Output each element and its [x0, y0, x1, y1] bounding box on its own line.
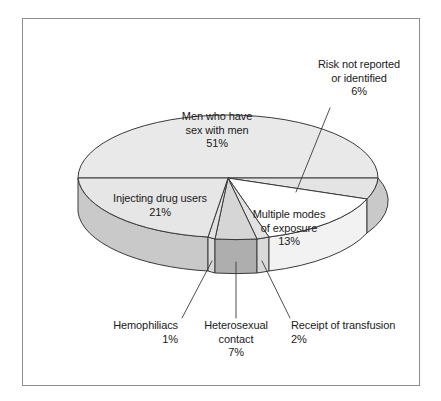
label-receipt-of-transfusion: Receipt of transfusion 2%: [291, 319, 421, 346]
label-heterosexual-contact: Heterosexual contact 7%: [189, 319, 283, 360]
label-msm-line1: Men who have: [150, 110, 284, 124]
label-transfusion-line1: Receipt of transfusion: [291, 319, 421, 333]
label-msm-line2: sex with men: [150, 124, 284, 138]
label-multiple-modes-line1: Multiple modes: [228, 208, 350, 222]
label-heterosexual-line2: contact: [189, 333, 283, 347]
label-heterosexual-line1: Heterosexual: [189, 319, 283, 333]
label-risk-not-reported-line2: or identified: [296, 72, 422, 86]
label-hemophiliacs-line1: Hemophiliacs: [68, 319, 178, 333]
label-hemophiliacs-value: 1%: [68, 333, 178, 347]
label-hemophiliacs: Hemophiliacs 1%: [68, 319, 178, 346]
label-risk-not-reported: Risk not reported or identified 6%: [296, 58, 422, 99]
figure-canvas: Risk not reported or identified 6% Men w…: [0, 0, 441, 401]
label-injecting-drug-users-line1: Injecting drug users: [90, 192, 230, 206]
label-men-who-have-sex-with-men: Men who have sex with men 51%: [150, 110, 284, 151]
label-heterosexual-value: 7%: [189, 346, 283, 360]
label-injecting-drug-users-value: 21%: [90, 206, 230, 220]
label-multiple-modes-line2: of exposure: [228, 222, 350, 236]
label-transfusion-value: 2%: [291, 333, 421, 347]
slice-side-hemophiliacs: [208, 237, 215, 273]
label-risk-not-reported-line1: Risk not reported: [296, 58, 422, 72]
label-risk-not-reported-value: 6%: [296, 85, 422, 99]
label-msm-value: 51%: [150, 137, 284, 151]
label-multiple-modes-value: 13%: [228, 235, 350, 249]
label-injecting-drug-users: Injecting drug users 21%: [90, 192, 230, 219]
label-multiple-modes-of-exposure: Multiple modes of exposure 13%: [228, 208, 350, 249]
